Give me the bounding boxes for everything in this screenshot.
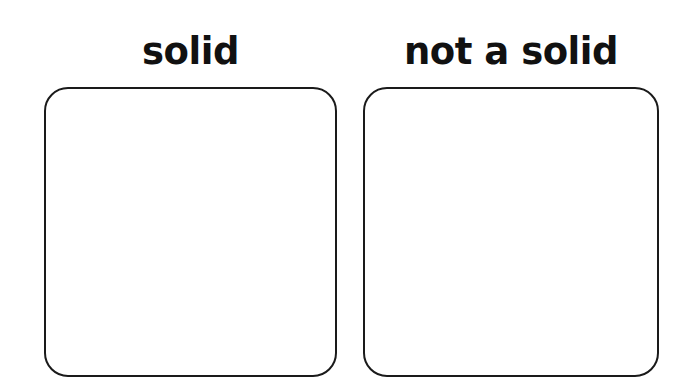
sort-box-not-a-solid[interactable] [363, 87, 659, 377]
sort-box-solid[interactable] [44, 87, 337, 377]
column-heading-solid: solid [44, 28, 337, 76]
column-heading-not-a-solid: not a solid [363, 28, 659, 76]
